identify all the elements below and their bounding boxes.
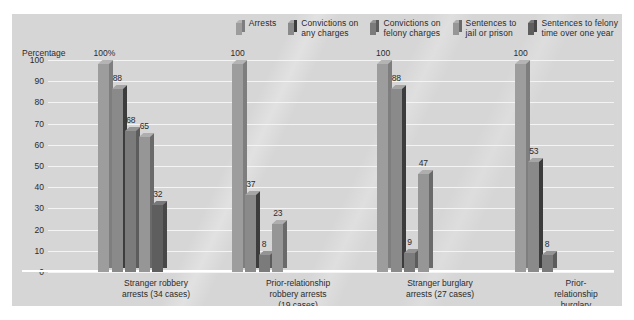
bar-value-label: 68	[126, 115, 135, 125]
bar-value-label: 9	[407, 237, 412, 247]
bar[interactable]: 37	[245, 195, 256, 272]
bar[interactable]: 100	[377, 64, 388, 272]
bar[interactable]: 32	[152, 205, 163, 272]
bar[interactable]: 88	[112, 89, 123, 272]
legend-swatch-icon	[288, 20, 297, 35]
bar-value-label: 53	[529, 146, 538, 156]
y-tick-label: 70	[35, 119, 44, 129]
plot-area: 1009080706050403020100 100%8868653210037…	[22, 60, 614, 272]
legend-label: Convictions on felony charges	[383, 19, 440, 38]
y-tick-label: 10	[35, 246, 44, 256]
x-axis-category-labels: Stranger robbery arrests (34 cases)Prior…	[48, 278, 622, 306]
legend-label: Sentences to felony time over one year	[541, 19, 618, 38]
category-label-0: Stranger robbery arrests (34 cases)	[122, 278, 190, 300]
bar-value-label: 23	[273, 208, 282, 218]
bar[interactable]: 100	[515, 64, 526, 272]
bar[interactable]: 23	[272, 224, 283, 272]
bar-group-0: 100%88686532	[48, 60, 190, 272]
legend-item-4[interactable]: Sentences to felony time over one year	[528, 19, 618, 55]
y-tick-label: 30	[35, 203, 44, 213]
y-tick-label: 80	[35, 97, 44, 107]
category-label-2: Stranger burglary arrests (27 cases)	[406, 278, 474, 300]
bar-value-label: 65	[140, 121, 149, 131]
bar-value-label: 37	[246, 179, 255, 189]
bar-value-label: 8	[545, 239, 550, 249]
category-label-3: Prior-relationship burglary arrests (17 …	[547, 278, 605, 306]
bar[interactable]: 8	[259, 255, 270, 272]
y-tick-label: 0	[39, 267, 44, 277]
bar[interactable]: 100%	[98, 64, 109, 272]
legend-item-2[interactable]: Convictions on felony charges	[370, 19, 440, 55]
chart-plate: ArrestsConvictions on any chargesConvict…	[12, 14, 622, 306]
y-tick-label: 40	[35, 182, 44, 192]
bar[interactable]: 53	[528, 162, 539, 272]
legend-item-1[interactable]: Convictions on any charges	[288, 19, 358, 55]
bar[interactable]: 68	[125, 131, 136, 272]
legend-item-3[interactable]: Sentences to jail or prison	[453, 19, 517, 55]
bar-value-label: 88	[392, 73, 401, 83]
legend-label: Convictions on any charges	[301, 19, 358, 38]
bar[interactable]: 47	[418, 174, 429, 272]
chart-legend: ArrestsConvictions on any chargesConvict…	[12, 19, 622, 55]
bar-group-2: 10088947	[331, 60, 473, 272]
legend-swatch-icon	[236, 20, 245, 35]
legend-label: Sentences to jail or prison	[466, 19, 517, 38]
bar-value-label: 88	[113, 73, 122, 83]
category-label-1: Prior-relationship robbery arrests (19 c…	[266, 278, 330, 306]
bar[interactable]: 88	[391, 89, 402, 272]
y-tick-label: 60	[35, 140, 44, 150]
chart-screenshot: ArrestsConvictions on any chargesConvict…	[0, 0, 634, 320]
gridline	[48, 272, 614, 273]
bar-value-label: 32	[153, 189, 162, 199]
legend-swatch-icon	[370, 20, 379, 35]
bar[interactable]: 9	[404, 253, 415, 272]
bar[interactable]: 100	[232, 64, 243, 272]
legend-label: Arrests	[249, 19, 277, 29]
legend-item-0[interactable]: Arrests	[236, 19, 277, 55]
bar-group-3: 100538	[473, 60, 615, 272]
y-tick-label: 90	[35, 76, 44, 86]
bar[interactable]: 8	[542, 255, 553, 272]
bar-value-label: 8	[262, 239, 267, 249]
bar-value-label: 47	[419, 158, 428, 168]
bars-canvas: 100%886865321003782310088947100538	[48, 60, 614, 272]
y-axis: 1009080706050403020100	[22, 60, 48, 272]
y-tick-label: 20	[35, 225, 44, 235]
bar[interactable]: 65	[139, 137, 150, 272]
y-tick-label: 50	[35, 161, 44, 171]
bar-group-1: 10037823	[190, 60, 332, 272]
legend-swatch-icon	[453, 20, 462, 35]
legend-swatch-icon	[528, 20, 537, 35]
